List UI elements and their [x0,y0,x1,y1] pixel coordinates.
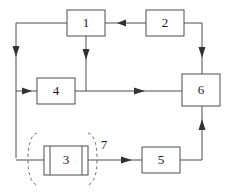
arrowhead-left-2-to-1 [117,20,126,27]
process-flow-diagram: 1 2 4 6 3 5 7 [0,0,229,193]
node-2[interactable]: 2 [146,10,184,36]
node-6-label: 6 [198,82,205,97]
node-4[interactable]: 4 [37,78,75,104]
connector-1-to-mid-junction [83,36,90,91]
node-4-label: 4 [53,83,60,98]
dashed-boundary-right-arc [88,133,97,185]
node-6[interactable]: 6 [182,74,220,106]
connector-5-to-6 [180,106,206,160]
arrowhead-up-5-to-6 [199,119,206,130]
arrowhead-right-4-to-6 [134,88,145,95]
node-1[interactable]: 1 [67,10,105,36]
connector-5-6-line [180,106,202,160]
dashed-boundary-left [28,133,37,185]
arrowhead-down-1-to-mid [83,49,90,60]
node-5[interactable]: 5 [142,147,180,173]
arrowhead-right-3-to-5 [121,157,132,164]
node-2-label: 2 [162,15,169,30]
arrowhead-down-2-to-6 [199,47,206,58]
node-1-label: 1 [83,15,90,30]
node-5-label: 5 [158,152,165,167]
dashed-boundary-right [88,133,97,185]
node-3[interactable]: 3 [44,146,88,175]
diagram-canvas: 1 2 4 6 3 5 7 [0,0,229,193]
dashed-boundary-left-arc [28,133,37,185]
tag-7-label: 7 [101,137,108,152]
connector-left-bus-to-4 [16,88,37,95]
connector-2-to-6 [184,23,206,74]
connector-2-to-1 [105,20,146,27]
connector-3-to-5 [88,157,142,164]
arrowhead-right-into-4 [22,88,32,95]
arrowhead-down-left-bus [13,46,20,57]
connector-4-to-6 [75,88,182,95]
node-3-label: 3 [63,152,70,167]
